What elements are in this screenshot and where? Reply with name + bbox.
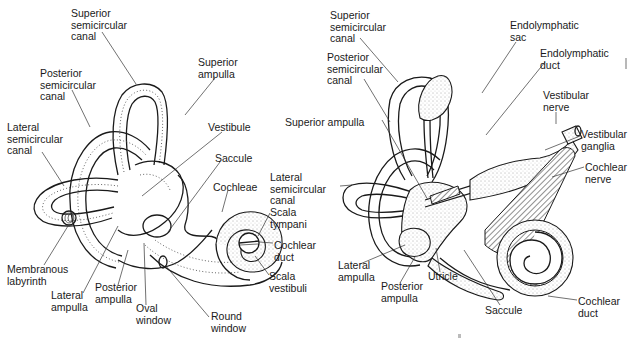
scan-artifact [458,334,461,338]
label-superior-semicircular-canal-left: Superior semicircular canal [71,8,127,43]
label-lateral-semicircular-canal-right: Lateral semicircular canal [270,172,326,207]
label-saccule-left: Saccule [215,153,252,165]
label-superior-semicircular-canal-right: Superior semicircular canal [330,10,386,45]
label-superior-ampulla-right: Superior ampulla [285,117,364,129]
label-oval-window: Oval window [136,303,171,326]
label-cochlear-duct-left: Cochlear duct [274,240,316,263]
label-cochlear-duct-right: Cochlear duct [578,296,620,319]
label-round-window: Round window [211,311,246,334]
label-vestibular-ganglia: Vestibular ganglia [581,129,627,152]
label-posterior-semicircular-canal-right: Posterior semicircular canal [327,52,383,87]
label-endolymphatic-duct: Endolymphatic duct [540,48,609,71]
label-scala-vestibuli: Scala vestibuli [269,271,307,294]
label-vestibular-nerve: Vestibular nerve [543,90,589,113]
label-vestibule: Vestibule [208,122,251,134]
label-lateral-ampulla-left: Lateral ampulla [51,290,88,313]
label-posterior-ampulla-right: Posterior ampulla [381,281,423,304]
label-cochleae: Cochleae [213,182,257,194]
label-superior-ampulla-left: Superior ampulla [198,57,238,80]
label-lateral-ampulla-right: Lateral ampulla [338,260,375,283]
label-posterior-ampulla-left: Posterior ampulla [95,282,137,305]
inner-ear-figure: Superior semicircular canal Posterior se… [0,0,637,345]
label-cochlear-nerve: Cochlear nerve [585,162,627,185]
label-endolymphatic-sac: Endolymphatic sac [510,20,579,43]
label-lateral-semicircular-canal-left: Lateral semicircular canal [7,122,63,157]
label-saccule-right: Saccule [485,305,522,317]
label-scala-tympani: Scala tympani [270,207,307,230]
label-membranous-labyrinth: Membranous labyrinth [7,264,68,287]
label-posterior-semicircular-canal-left: Posterior semicircular canal [40,68,96,103]
label-utricle: Utricle [428,271,458,283]
